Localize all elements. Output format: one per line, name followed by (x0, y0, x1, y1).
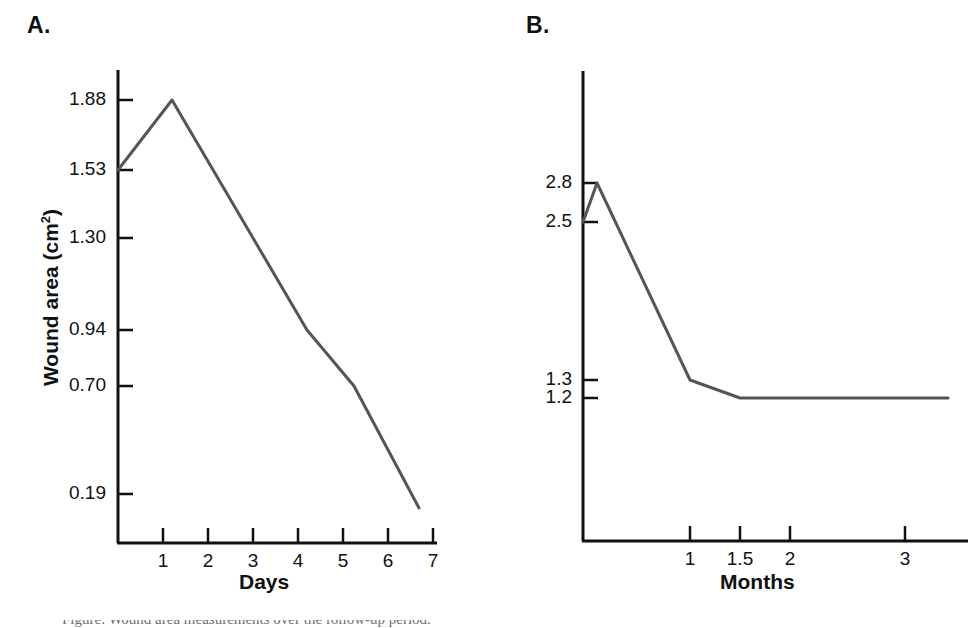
panel-b-y-tick-label-2-8: 2.8 (510, 171, 572, 193)
figure-caption-text: Figure. Wound area measurements over the… (62, 620, 431, 628)
panel-b-y-tick-label-1-2: 1.2 (510, 386, 572, 408)
panel-b-x-tick-label-2: 2 (775, 548, 805, 570)
panel-b-x-tick-label-3: 3 (890, 548, 920, 570)
panel-b-plot (0, 0, 973, 628)
panel-b-x-tick-label-1: 1 (675, 548, 705, 570)
panel-b-data-line (583, 183, 948, 398)
panel-b-x-ticks (690, 526, 905, 541)
panel-b-y-tick-label-2-5: 2.5 (510, 210, 572, 232)
figure-container: A. B. Wound area (cm2) Days Months (0, 0, 973, 628)
panel-b-x-tick-label-1-5: 1.5 (720, 548, 760, 570)
figure-caption-strip: Figure. Wound area measurements over the… (0, 620, 973, 628)
